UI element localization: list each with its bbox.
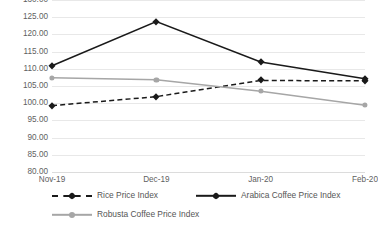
x-axis-tick-label: Jan-20 [248, 172, 273, 188]
x-axis-tick-label: Nov-19 [39, 172, 65, 188]
data-point-marker [362, 103, 367, 108]
x-axis-tick-label: Feb-20 [352, 172, 378, 188]
plot-area: 80.0085.0090.0095.00100.00105.00110.0011… [0, 0, 369, 172]
legend-label-robusta-coffee-price-index: Robusta Coffee Price Index [97, 209, 199, 220]
x-axis-tick-label: Dec-19 [143, 172, 169, 188]
y-axis-tick-label: 95.00 [28, 116, 49, 124]
y-axis-tick-label: 90.00 [28, 133, 49, 141]
legend-key-arabica-coffee-price-index [196, 190, 236, 201]
legend-item-arabica-coffee-price-index[interactable]: Arabica Coffee Price Index [196, 190, 340, 201]
legend-label-arabica-coffee-price-index: Arabica Coffee Price Index [241, 190, 340, 201]
series-line [52, 80, 365, 105]
legend-label-rice-price-index: Rice Price Index [97, 190, 158, 201]
legend-marker-diamond-icon [68, 191, 76, 199]
series-line [52, 22, 365, 79]
legend-key-rice-price-index [52, 190, 92, 201]
y-axis-tick-label: 105.00 [23, 82, 48, 90]
y-axis-tick-label: 115.00 [24, 47, 48, 55]
legend-item-robusta-coffee-price-index[interactable]: Robusta Coffee Price Index [52, 209, 199, 220]
gridlines-and-series [52, 0, 365, 172]
y-axis-tick-label: 120.00 [23, 30, 48, 38]
y-axis-tick-label: 125.00 [23, 13, 48, 21]
x-axis: Nov-19Dec-19Jan-20Feb-20 [52, 172, 365, 188]
y-axis: 80.0085.0090.0095.00100.00105.00110.0011… [0, 0, 52, 172]
y-axis-tick-label: 85.00 [28, 151, 49, 159]
y-axis-tick-label: 110.00 [24, 65, 48, 73]
y-axis-tick-label: 100.00 [23, 99, 48, 107]
y-axis-tick-label: 130.00 [23, 0, 48, 4]
legend-key-robusta-coffee-price-index [52, 209, 92, 220]
series-line [52, 78, 365, 106]
legend-marker-circle-icon [69, 212, 75, 218]
series-layer [52, 0, 365, 172]
legend-item-rice-price-index[interactable]: Rice Price Index [52, 190, 158, 201]
legend-marker-diamond-icon [212, 191, 220, 199]
chart-legend: Rice Price Index Arabica Coffee Price In… [0, 190, 369, 229]
